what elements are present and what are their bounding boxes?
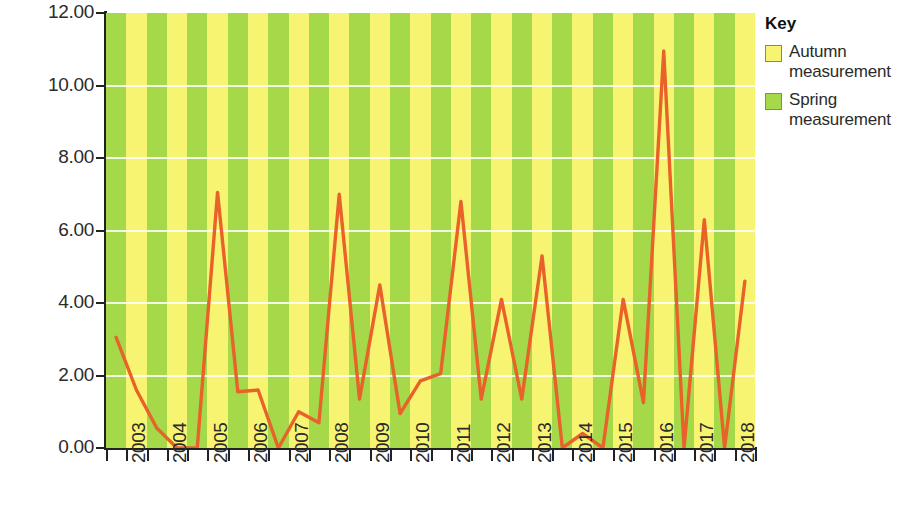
y-tick-mark-8 <box>96 157 105 159</box>
legend-swatch-icon-1 <box>765 93 782 110</box>
x-tick-label-2017: 2017 <box>696 403 718 463</box>
legend-entries: Autumn measurementSpring measurement <box>765 42 914 130</box>
y-tick-mark-0 <box>96 447 105 449</box>
x-tick-label-2004: 2004 <box>169 403 191 463</box>
x-tick-label-2006: 2006 <box>250 403 272 463</box>
y-tick-label-2: 2.00 <box>28 364 94 386</box>
x-tick-label-2016: 2016 <box>656 403 678 463</box>
legend-label-0: Autumn measurement <box>789 42 914 82</box>
x-tick-label-2014: 2014 <box>575 403 597 463</box>
series-polyline <box>116 51 745 448</box>
legend-title: Key <box>765 14 914 34</box>
legend-label-1: Spring measurement <box>789 90 914 130</box>
y-tick-label-8: 8.00 <box>28 146 94 168</box>
x-tick-label-2003: 2003 <box>128 403 150 463</box>
x-tick-label-2009: 2009 <box>372 403 394 463</box>
y-tick-label-0: 0.00 <box>28 436 94 458</box>
y-tick-label-4: 4.00 <box>28 291 94 313</box>
y-tick-mark-10 <box>96 85 105 87</box>
x-tick-label-2015: 2015 <box>615 403 637 463</box>
x-tick-label-2018: 2018 <box>737 403 759 463</box>
y-tick-mark-2 <box>96 375 105 377</box>
x-tick-label-2012: 2012 <box>493 403 515 463</box>
y-tick-label-12: 12.00 <box>28 1 94 23</box>
x-tick-label-2010: 2010 <box>412 403 434 463</box>
legend: Key Autumn measurementSpring measurement <box>765 14 914 138</box>
y-tick-mark-4 <box>96 302 105 304</box>
erosion-rate-line-series <box>106 13 755 448</box>
x-tick-label-2013: 2013 <box>534 403 556 463</box>
x-tick-label-2005: 2005 <box>210 403 232 463</box>
legend-entry-1: Spring measurement <box>765 90 914 130</box>
x-tick-mark-0 <box>106 450 108 461</box>
y-tick-mark-6 <box>96 230 105 232</box>
x-tick-label-2011: 2011 <box>453 403 475 463</box>
legend-entry-0: Autumn measurement <box>765 42 914 82</box>
plot-area <box>106 13 755 448</box>
y-tick-label-10: 10.00 <box>28 74 94 96</box>
erosion-rate-chart: Erosion rate (metres per six months) 12.… <box>0 0 914 512</box>
x-tick-label-2008: 2008 <box>331 403 353 463</box>
y-tick-label-6: 6.00 <box>28 219 94 241</box>
y-axis-tick-labels: 12.0010.008.006.004.002.000.00 <box>22 0 94 470</box>
x-tick-label-2007: 2007 <box>291 403 313 463</box>
legend-swatch-icon-0 <box>765 45 782 62</box>
y-tick-mark-12 <box>96 12 105 14</box>
